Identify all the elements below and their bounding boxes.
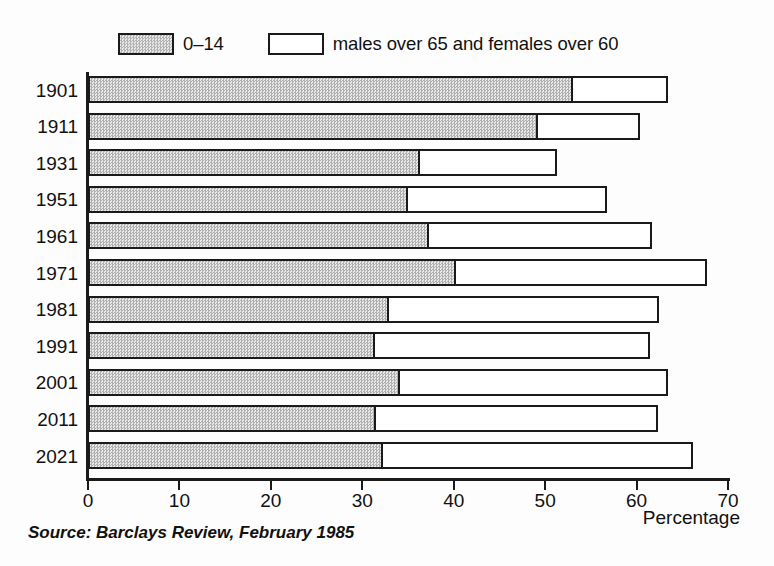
bar-segment-old (406, 186, 607, 213)
bar-year-label: 2021 (36, 446, 78, 465)
bar-year-label: 1901 (36, 80, 78, 99)
bar-segment-old (387, 296, 659, 323)
bar-year-label: 1961 (36, 226, 78, 245)
bar-segment-young (88, 186, 408, 213)
bar-row: 2011 (88, 405, 658, 432)
bar-row: 2001 (88, 369, 668, 396)
bar-segment-old (427, 222, 652, 249)
bar-year-label: 1981 (36, 300, 78, 319)
bar-segment-old (571, 76, 667, 103)
bar-segment-old (381, 442, 693, 469)
source-note: Source: Barclays Review, February 1985 (28, 524, 354, 541)
bar-segment-young (88, 369, 400, 396)
bar-segment-young (88, 222, 429, 249)
bar-row: 2021 (88, 442, 693, 469)
bar-segment-young (88, 149, 420, 176)
bar-segment-young (88, 296, 389, 323)
bar-year-label: 2001 (36, 373, 78, 392)
bar-row: 1991 (88, 332, 650, 359)
plot-area: 010203040506070 190119111931195119611971… (0, 0, 774, 566)
bar-row: 1911 (88, 113, 640, 140)
bar-segment-young (88, 76, 573, 103)
bar-year-label: 1911 (37, 117, 78, 136)
bar-segment-old (374, 405, 658, 432)
bar-row: 1971 (88, 259, 707, 286)
bar-row: 1961 (88, 222, 652, 249)
bar-segment-young (88, 113, 538, 140)
bar-row: 1951 (88, 186, 607, 213)
bar-year-label: 1971 (36, 263, 78, 282)
bar-segment-old (536, 113, 640, 140)
bar-segment-old (398, 369, 668, 396)
bar-row: 1981 (88, 296, 659, 323)
bar-segment-young (88, 332, 375, 359)
bar-year-label: 2011 (37, 409, 78, 428)
bar-segment-old (454, 259, 707, 286)
bar-row: 1931 (88, 149, 557, 176)
bar-series-group: 1901191119311951196119711981199120012011… (0, 0, 774, 566)
bar-year-label: 1951 (36, 190, 78, 209)
bar-row: 1901 (88, 76, 668, 103)
bar-year-label: 1991 (36, 336, 78, 355)
bar-segment-young (88, 405, 376, 432)
bar-year-label: 1931 (36, 153, 78, 172)
bar-segment-young (88, 442, 383, 469)
x-axis-title: Percentage (643, 508, 740, 527)
bar-segment-old (373, 332, 650, 359)
bar-segment-old (418, 149, 557, 176)
bar-segment-young (88, 259, 456, 286)
chart-figure: 0–14 males over 65 and females over 60 0… (0, 0, 774, 566)
